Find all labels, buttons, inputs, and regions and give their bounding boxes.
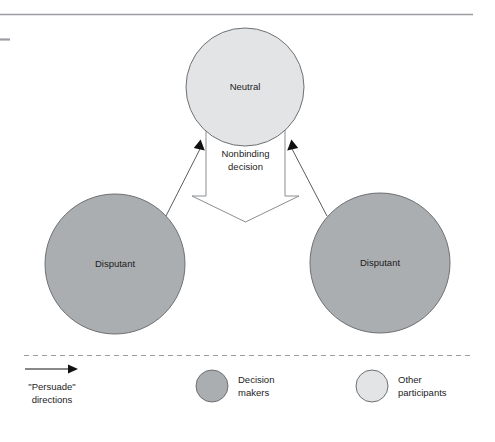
arrow-persuade-left [166,140,205,216]
node-label-neutral: Neutral [230,81,261,92]
legend-label-line1: Other [398,374,422,385]
legend-item-other-participants: Other participants [356,370,447,402]
node-disputant-right[interactable]: Disputant [310,193,450,333]
node-disputant-left[interactable]: Disputant [45,194,185,334]
legend-item-decision-makers: Decision makers [196,370,274,402]
arrowhead-icon [194,140,205,151]
legend-label-line2: directions [32,394,73,405]
legend-label-line1: "Persuade" [28,381,75,392]
node-label-disputant-left: Disputant [95,258,135,269]
legend-label-line2: makers [238,387,269,398]
flow-label-line1: Nonbinding [221,148,269,159]
node-neutral[interactable]: Neutral [186,28,304,146]
mediation-diagram: Nonbinding decision Neutral Disputant Di… [0,0,495,442]
circle-icon [356,370,388,402]
circle-icon [196,370,228,402]
node-label-disputant-right: Disputant [360,257,400,268]
arrow-persuade-right [287,140,327,216]
legend-label-line2: participants [398,387,447,398]
legend-item-persuade-directions: "Persuade" directions [25,365,78,406]
arrowhead-icon [287,140,298,151]
arrow-right-icon [68,365,78,374]
legend-label-line1: Decision [238,374,274,385]
flow-label-line2: decision [228,161,263,172]
